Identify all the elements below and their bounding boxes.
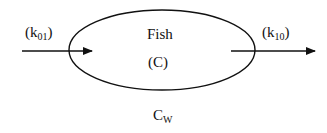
outflow-label-prefix: (k	[262, 24, 275, 40]
inflow-label-subscript: 01	[38, 31, 48, 42]
water-label-subscript: W	[163, 114, 172, 125]
inflow-rate-label: (k01)	[25, 25, 53, 42]
inflow-label-suffix: )	[48, 24, 53, 40]
outflow-label-suffix: )	[285, 24, 290, 40]
compartment-name: Fish	[147, 27, 173, 42]
outflow-label-subscript: 10	[275, 31, 285, 42]
outflow-rate-label: (k10)	[262, 25, 290, 42]
fish-compartment-ellipse	[69, 10, 255, 90]
water-concentration-label: CW	[153, 108, 172, 125]
compartment-variable: (C)	[148, 55, 168, 70]
water-label-main: C	[153, 107, 163, 123]
inflow-label-prefix: (k	[25, 24, 38, 40]
